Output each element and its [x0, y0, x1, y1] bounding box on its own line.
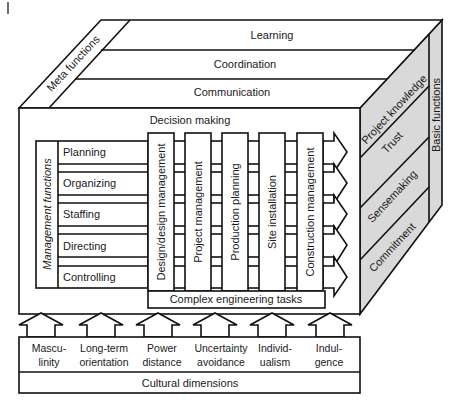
cultural-dimensions-box: Mascu- linity Long-term orientation Powe… [19, 337, 360, 393]
column-site-installation: Site installation [266, 175, 278, 249]
management-functions-label: Management functions [41, 158, 53, 270]
svg-text:gence: gence [315, 356, 344, 368]
mgmt-item-staffing: Staffing [63, 208, 100, 220]
svg-text:Indul-: Indul- [316, 342, 343, 354]
row-arrows [323, 133, 347, 296]
column-design-management: Design/design management [155, 144, 167, 281]
mgmt-item-organizing: Organizing [63, 177, 116, 189]
svg-text:Uncertainty: Uncertainty [194, 342, 248, 354]
mgmt-item-planning: Planning [63, 146, 106, 158]
svg-text:Individ-: Individ- [258, 342, 292, 354]
svg-text:orientation: orientation [79, 356, 128, 368]
cultural-dimensions-footer: Cultural dimensions [142, 377, 239, 389]
svg-text:ualism: ualism [260, 356, 291, 368]
management-functions-box: Management functions Planning Organizing… [36, 141, 148, 288]
cube-framework-diagram: Project knowledge Trust Sensemaking Comm… [0, 0, 460, 407]
svg-text:avoidance: avoidance [197, 356, 245, 368]
svg-text:linity: linity [38, 356, 60, 368]
mgmt-item-controlling: Controlling [63, 271, 116, 283]
basic-functions-label: Basic functions [430, 78, 442, 152]
column-production-planning: Production planning [229, 163, 241, 260]
layer-communication: Communication [194, 86, 270, 98]
svg-text:Long-term: Long-term [80, 342, 128, 354]
svg-text:Power: Power [147, 342, 177, 354]
front-face: Decision making Management functions [19, 108, 360, 314]
complex-engineering-tasks-label: Complex engineering tasks [170, 293, 303, 305]
layer-coordination: Coordination [214, 58, 276, 70]
complex-engineering-tasks-bar: Complex engineering tasks [148, 291, 325, 308]
engineering-columns: Design/design management Project managem… [148, 133, 323, 291]
decision-making-title: Decision making [150, 114, 231, 126]
cultural-dimensions-arrows [19, 313, 352, 337]
layer-learning: Learning [251, 29, 294, 41]
column-construction-management: Construction management [304, 147, 316, 276]
mgmt-item-directing: Directing [63, 240, 106, 252]
svg-text:Mascu-: Mascu- [32, 342, 67, 354]
column-project-management: Project management [192, 161, 204, 263]
svg-text:distance: distance [142, 356, 181, 368]
